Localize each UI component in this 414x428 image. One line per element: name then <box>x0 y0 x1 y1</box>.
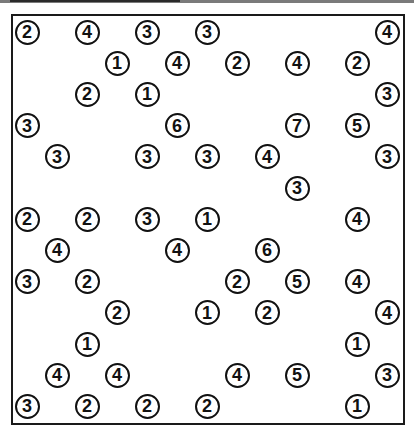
island-r2-c12[interactable]: 3 <box>375 82 400 107</box>
cropped-header-text <box>10 0 180 2</box>
island-r3-c11[interactable]: 5 <box>345 113 370 138</box>
island-r6-c11[interactable]: 4 <box>345 207 370 232</box>
island-r12-c6[interactable]: 2 <box>195 394 220 419</box>
island-r7-c5[interactable]: 4 <box>165 238 190 263</box>
island-r8-c7[interactable]: 2 <box>225 269 250 294</box>
island-r0-c4[interactable]: 3 <box>135 20 160 45</box>
island-r8-c2[interactable]: 2 <box>75 269 100 294</box>
island-r1-c7[interactable]: 2 <box>225 51 250 76</box>
island-r4-c8[interactable]: 4 <box>255 144 280 169</box>
island-r6-c2[interactable]: 2 <box>75 207 100 232</box>
island-r8-c0[interactable]: 3 <box>15 269 40 294</box>
island-r0-c12[interactable]: 4 <box>375 20 400 45</box>
island-r1-c9[interactable]: 4 <box>285 51 310 76</box>
island-r12-c4[interactable]: 2 <box>135 394 160 419</box>
island-r6-c0[interactable]: 2 <box>15 207 40 232</box>
island-r11-c3[interactable]: 4 <box>105 363 130 388</box>
island-r2-c2[interactable]: 2 <box>75 82 100 107</box>
island-r11-c12[interactable]: 3 <box>375 363 400 388</box>
island-r12-c11[interactable]: 1 <box>345 394 370 419</box>
island-r10-c11[interactable]: 1 <box>345 332 370 357</box>
island-r2-c4[interactable]: 1 <box>135 82 160 107</box>
island-r9-c12[interactable]: 4 <box>375 300 400 325</box>
island-r7-c1[interactable]: 4 <box>45 238 70 263</box>
island-r3-c9[interactable]: 7 <box>285 113 310 138</box>
island-r9-c8[interactable]: 2 <box>255 300 280 325</box>
island-r10-c2[interactable]: 1 <box>75 332 100 357</box>
island-r4-c1[interactable]: 3 <box>45 144 70 169</box>
island-r1-c3[interactable]: 1 <box>105 51 130 76</box>
island-r0-c0[interactable]: 2 <box>15 20 40 45</box>
island-r5-c9[interactable]: 3 <box>285 176 310 201</box>
island-r7-c8[interactable]: 6 <box>255 238 280 263</box>
island-r1-c5[interactable]: 4 <box>165 51 190 76</box>
island-r11-c9[interactable]: 5 <box>285 363 310 388</box>
island-r9-c6[interactable]: 1 <box>195 300 220 325</box>
island-r4-c4[interactable]: 3 <box>135 144 160 169</box>
island-r6-c4[interactable]: 3 <box>135 207 160 232</box>
island-r3-c0[interactable]: 3 <box>15 113 40 138</box>
island-r11-c1[interactable]: 4 <box>45 363 70 388</box>
island-r0-c2[interactable]: 4 <box>75 20 100 45</box>
island-r4-c12[interactable]: 3 <box>375 144 400 169</box>
island-r1-c11[interactable]: 2 <box>345 51 370 76</box>
island-r8-c11[interactable]: 4 <box>345 269 370 294</box>
island-r12-c0[interactable]: 3 <box>15 394 40 419</box>
island-r8-c9[interactable]: 5 <box>285 269 310 294</box>
island-r12-c2[interactable]: 2 <box>75 394 100 419</box>
island-r11-c7[interactable]: 4 <box>225 363 250 388</box>
island-r0-c6[interactable]: 3 <box>195 20 220 45</box>
island-r4-c6[interactable]: 3 <box>195 144 220 169</box>
island-r3-c5[interactable]: 6 <box>165 113 190 138</box>
island-r6-c6[interactable]: 1 <box>195 207 220 232</box>
island-r9-c3[interactable]: 2 <box>105 300 130 325</box>
